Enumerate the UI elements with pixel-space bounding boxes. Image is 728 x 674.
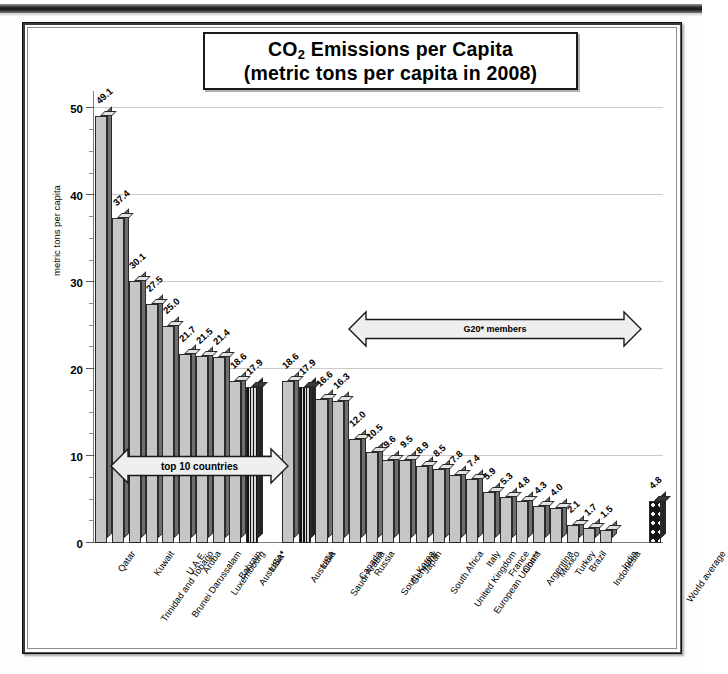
y-axis-minor-tick (89, 346, 94, 347)
bar (416, 466, 428, 543)
bar-value-label: 16.3 (330, 371, 351, 392)
bar-front-face (516, 501, 528, 543)
y-axis-minor-tick (89, 216, 94, 217)
bar (382, 460, 394, 543)
y-axis-label: 50 (70, 103, 83, 115)
bar-value-label: 17.9 (297, 357, 318, 378)
bar (366, 452, 378, 543)
chart-title-box: CO2 Emissions per Capita (metric tons pe… (203, 32, 578, 90)
bar-front-face (315, 399, 327, 543)
bar (129, 281, 141, 543)
y-axis-minor-tick (89, 520, 94, 521)
bar-front-face (533, 506, 545, 543)
bar-value-label: 4.0 (548, 481, 565, 498)
annotation-arrow: top 10 countries (111, 449, 288, 483)
bar-front-face (332, 401, 344, 543)
bar-front-face (146, 304, 158, 543)
grid-line (93, 194, 663, 195)
bar-front-face (600, 530, 612, 543)
bar-value-label: 7.8 (447, 448, 464, 465)
bar-value-label: 21.4 (211, 326, 232, 347)
annotation-arrow: G20* members (349, 312, 641, 346)
chart-title-rest: Emissions per Capita (305, 38, 513, 60)
bar-value-label: 12.0 (347, 408, 368, 429)
y-axis-minor-tick (89, 390, 94, 391)
y-axis-minor-tick (89, 433, 94, 434)
y-axis-tick (86, 455, 94, 456)
bar-value-label: 5.9 (481, 465, 498, 482)
y-axis-minor-tick (89, 173, 94, 174)
bar (146, 304, 158, 543)
bar-front-face (399, 460, 411, 543)
bar-front-face (567, 525, 579, 543)
bar (516, 501, 528, 543)
y-axis-tick (86, 281, 94, 282)
bar-value-label: 8.9 (414, 439, 431, 456)
bar (315, 399, 327, 543)
bar-front-face (433, 469, 445, 543)
bar (550, 508, 562, 543)
y-axis-label: 10 (70, 451, 83, 463)
annotation-label: G20* members (349, 312, 641, 346)
bar-value-label: 21.5 (194, 326, 215, 347)
y-axis-label: 20 (70, 364, 83, 376)
y-axis-minor-tick (89, 477, 94, 478)
bar-value-label: 10.5 (364, 421, 385, 442)
chart-title-line1: CO2 Emissions per Capita (268, 39, 513, 62)
bar-front-face (649, 501, 661, 543)
bar-value-label: 1.5 (598, 503, 615, 520)
bar-front-face (162, 326, 174, 543)
bar-front-face (550, 508, 562, 543)
bar-front-face (112, 218, 124, 543)
bar (533, 506, 545, 543)
bar-value-label: 30.1 (127, 251, 148, 272)
bar-value-label: 8.5 (431, 442, 448, 459)
bar-value-label: 4.8 (647, 474, 664, 491)
y-axis-tick (86, 368, 94, 369)
bar-value-label: 37.4 (110, 187, 131, 208)
bar (112, 218, 124, 543)
bar (567, 525, 579, 543)
bar-front-face (366, 452, 378, 543)
y-axis-label: 0 (77, 538, 83, 550)
chart-frame: CO2 Emissions per Capita (metric tons pe… (22, 22, 682, 654)
chart-title-co: CO (268, 38, 298, 60)
bar (95, 116, 107, 543)
chart-title-line2: (metric tons per capita in 2008) (244, 63, 538, 83)
bar-value-label: 9.5 (397, 433, 414, 450)
bar-front-face (95, 116, 107, 543)
y-axis-tick (86, 542, 94, 543)
bar-value-label: 4.3 (531, 479, 548, 496)
bar-front-face (449, 475, 461, 543)
y-axis-minor-tick (89, 129, 94, 130)
annotation-label: top 10 countries (111, 449, 288, 483)
grid-line (93, 107, 663, 108)
grid-line (93, 281, 663, 282)
bar (466, 479, 478, 543)
y-axis-minor-tick (89, 325, 94, 326)
bar (483, 492, 495, 543)
bar (449, 475, 461, 543)
y-axis-minor-tick (89, 499, 94, 500)
bar-front-face (416, 466, 428, 543)
y-axis-minor-tick (89, 412, 94, 413)
y-axis-minor-tick (89, 238, 94, 239)
bar-value-label: 5.3 (498, 470, 515, 487)
scan-artifact-strip-light (0, 13, 702, 16)
bar-value-label: 2.1 (565, 498, 582, 515)
bar-front-face (483, 492, 495, 543)
bar (399, 460, 411, 543)
x-axis-category-label: World average (685, 549, 728, 604)
bar (600, 530, 612, 543)
bar (583, 528, 595, 543)
y-axis-minor-tick (89, 303, 94, 304)
y-axis-minor-tick (89, 151, 94, 152)
bar-front-face (382, 460, 394, 543)
bar (332, 401, 344, 543)
bar-front-face (349, 439, 361, 543)
bar (433, 469, 445, 543)
chart-title-subscript: 2 (298, 47, 305, 62)
y-axis-label: 40 (70, 190, 83, 202)
bar (162, 326, 174, 543)
